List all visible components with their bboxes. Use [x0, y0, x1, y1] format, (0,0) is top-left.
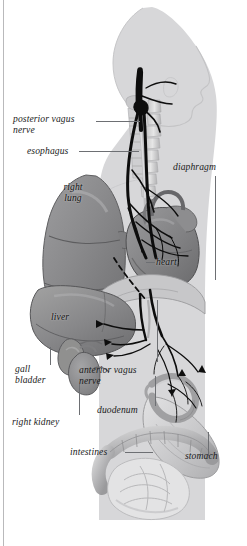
leader-duodenum	[155, 376, 156, 406]
label-liver: liver	[51, 311, 83, 322]
label-intestines: intestines	[70, 446, 126, 457]
vertebra-c5	[145, 138, 160, 149]
label-gall-bladder: gall bladder	[15, 363, 65, 386]
leader-right-kidney	[79, 384, 80, 415]
label-esophagus: esophagus	[27, 145, 81, 156]
label-duodenum: duodenum	[97, 404, 155, 415]
leader-posterior-vagus-nerve	[96, 121, 140, 122]
label-diaphragm: diaphragm	[173, 161, 235, 172]
anatomy-figure: posterior vagus nerve esophagus diaphrag…	[0, 0, 247, 546]
label-heart: heart	[156, 256, 190, 267]
leader-anterior-vagus-nerve	[157, 300, 158, 362]
leader-esophagus	[79, 151, 139, 152]
label-anterior-vagus-nerve: anterior vagus nerve	[79, 364, 155, 387]
anatomy-illustration	[0, 0, 247, 546]
leader-intestines	[125, 452, 153, 453]
label-posterior-vagus-nerve: posterior vagus nerve	[13, 113, 97, 136]
label-right-kidney: right kidney	[12, 416, 82, 427]
label-stomach: stomach	[185, 450, 237, 461]
leader-heart	[146, 262, 155, 263]
label-right-lung: right lung	[51, 181, 95, 204]
vagus-ganglion-nodose	[134, 100, 148, 114]
leader-diaphragm	[215, 176, 216, 280]
